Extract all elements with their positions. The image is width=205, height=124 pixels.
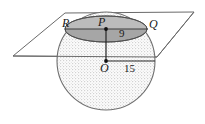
label-q: Q [149,17,158,31]
label-nine: 9 [119,27,125,39]
plane-right-edge [157,12,194,57]
label-r: R [61,16,70,30]
label-fifteen: 15 [124,62,136,74]
label-o: O [100,61,109,75]
label-p: P [97,15,106,29]
geometry-figure: R P Q 9 O 15 [0,0,205,124]
sphere-plane-diagram: R P Q 9 O 15 [0,0,205,124]
